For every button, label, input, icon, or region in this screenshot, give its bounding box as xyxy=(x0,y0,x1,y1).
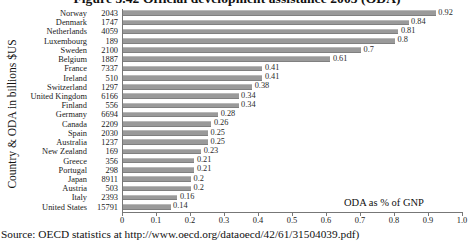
oda-billions-value: 189 xyxy=(90,37,120,46)
category-label-row: Denmark1747 xyxy=(14,18,120,27)
oda-billions-value: 6166 xyxy=(90,92,120,101)
bar-row: 0.21 xyxy=(123,157,463,166)
oda-billions-value: 15791 xyxy=(90,203,120,212)
oda-billions-value: 2100 xyxy=(90,46,120,55)
bar xyxy=(123,66,262,72)
oda-billions-value: 298 xyxy=(90,166,120,175)
x-axis-tick-label: 0.4 xyxy=(253,216,263,225)
x-axis-tick-label: 0.8 xyxy=(389,216,399,225)
bar-value-label: 0.14 xyxy=(171,201,188,210)
bar xyxy=(123,186,191,192)
category-label-row: Portugal298 xyxy=(14,166,120,175)
oda-billions-value: 169 xyxy=(90,147,120,156)
bar-value-label: 0.41 xyxy=(262,63,279,72)
bar-value-label: 0.2 xyxy=(191,183,204,192)
bar-value-label: 0.2 xyxy=(191,174,204,183)
category-name: United States xyxy=(42,203,90,212)
bar-row: 0.41 xyxy=(123,64,463,73)
bar xyxy=(123,38,395,44)
x-axis-title: ODA as % of GNP xyxy=(344,197,424,208)
bar xyxy=(123,195,177,201)
bar-value-label: 0.25 xyxy=(208,137,225,146)
category-name: Italy xyxy=(72,193,90,202)
category-label-row: Norway2043 xyxy=(14,9,120,18)
bar xyxy=(123,167,194,173)
plot-area: 0.920.840.810.80.70.610.410.410.380.340.… xyxy=(122,9,463,212)
category-label-row: United Kingdom6166 xyxy=(14,92,120,101)
category-label-row: Australia1237 xyxy=(14,138,120,147)
x-axis-tick-label: 0.2 xyxy=(185,216,195,225)
bar xyxy=(123,158,194,164)
category-name: France xyxy=(64,64,90,73)
x-axis-tick-label: 0.3 xyxy=(219,216,229,225)
bar xyxy=(123,47,361,53)
category-name: United Kingdom xyxy=(30,92,90,101)
oda-billions-value: 510 xyxy=(90,74,120,83)
bar-value-label: 0.41 xyxy=(262,72,279,81)
oda-billions-value: 1237 xyxy=(90,138,120,147)
bar-row: 0.23 xyxy=(123,147,463,156)
category-label-column: Norway2043Denmark1747Netherlands4059Luxe… xyxy=(14,9,120,212)
bar-value-label: 0.7 xyxy=(361,45,374,54)
bar xyxy=(123,121,211,127)
bar-row: 0.7 xyxy=(123,46,463,55)
category-name: Luxembourg xyxy=(44,37,90,46)
category-name: Canada xyxy=(62,120,90,129)
bar xyxy=(123,130,208,136)
x-axis-tick-label: 0.9 xyxy=(423,216,433,225)
bar-row: 0.34 xyxy=(123,101,463,110)
category-name: Spain xyxy=(68,129,90,138)
bar-row: 0.81 xyxy=(123,27,463,36)
category-label-row: Switzerland1297 xyxy=(14,83,120,92)
bar xyxy=(123,103,239,109)
category-name: Portugal xyxy=(59,166,90,175)
bar-row: 0.41 xyxy=(123,74,463,83)
bar xyxy=(123,10,436,16)
category-name: Belgium xyxy=(58,55,90,64)
category-label-row: Finland556 xyxy=(14,101,120,110)
oda-billions-value: 2030 xyxy=(90,129,120,138)
bar-row: 0.21 xyxy=(123,166,463,175)
bar-row: 0.34 xyxy=(123,92,463,101)
category-label-row: Ireland510 xyxy=(14,74,120,83)
oda-billions-value: 2393 xyxy=(90,193,120,202)
category-label-row: Italy2393 xyxy=(14,193,120,202)
source-note: Source: OECD statistics at http://www.oe… xyxy=(1,228,359,240)
category-name: New Zealand xyxy=(42,147,90,156)
category-name: Finland xyxy=(61,101,90,110)
bar-row: 0.25 xyxy=(123,129,463,138)
category-label-row: Belgium1887 xyxy=(14,55,120,64)
bar-row: 0.2 xyxy=(123,175,463,184)
category-name: Greece xyxy=(63,157,90,166)
category-label-row: France7337 xyxy=(14,64,120,73)
bar-row: 0.2 xyxy=(123,184,463,193)
bar xyxy=(123,112,218,118)
category-name: Sweden xyxy=(60,46,90,55)
category-name: Denmark xyxy=(56,18,90,27)
category-label-row: New Zealand169 xyxy=(14,147,120,156)
category-name: Norway xyxy=(60,9,90,18)
category-label-row: Japan8911 xyxy=(14,175,120,184)
figure-container: Figure 3.42 Official development assista… xyxy=(0,0,474,244)
bar-value-label: 0.38 xyxy=(252,81,269,90)
category-name: Japan xyxy=(68,175,90,184)
oda-billions-value: 7337 xyxy=(90,64,120,73)
x-axis-tick-label: 0 xyxy=(120,216,124,225)
bar xyxy=(123,149,201,155)
bar-value-label: 0.34 xyxy=(239,91,256,100)
bar xyxy=(123,204,171,210)
category-label-row: Netherlands4059 xyxy=(14,27,120,36)
bar xyxy=(123,84,252,90)
bar xyxy=(123,139,208,145)
bar-value-label: 0.25 xyxy=(208,128,225,137)
bar-value-label: 0.81 xyxy=(398,26,415,35)
bar-value-label: 0.21 xyxy=(194,155,211,164)
category-label-row: Germany6694 xyxy=(14,110,120,119)
category-label-row: Austria503 xyxy=(14,184,120,193)
bar xyxy=(123,93,239,99)
oda-billions-value: 4059 xyxy=(90,27,120,36)
bar-value-label: 0.23 xyxy=(201,146,218,155)
bar-value-label: 0.34 xyxy=(239,100,256,109)
category-label-row: Sweden2100 xyxy=(14,46,120,55)
category-name: Australia xyxy=(56,138,90,147)
